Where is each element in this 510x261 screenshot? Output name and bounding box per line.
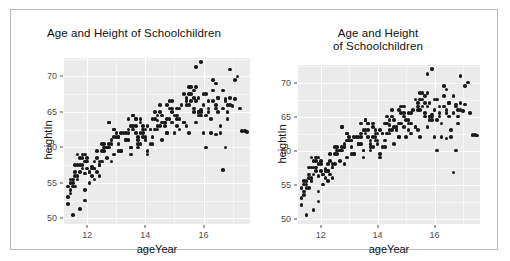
data-point <box>404 135 408 139</box>
gridline-horizontal <box>298 83 480 84</box>
data-point <box>144 128 148 132</box>
data-point <box>73 163 77 167</box>
data-point <box>102 142 106 146</box>
data-point <box>134 124 138 128</box>
data-point <box>160 138 164 142</box>
data-point <box>66 185 70 189</box>
data-point <box>345 139 349 143</box>
data-point <box>350 152 354 156</box>
data-point <box>307 166 311 170</box>
data-point <box>390 108 394 112</box>
data-point <box>383 145 387 149</box>
data-point <box>305 213 309 217</box>
data-point <box>124 131 128 135</box>
data-point <box>194 99 198 103</box>
data-point <box>371 122 375 126</box>
data-point <box>71 185 75 189</box>
data-point <box>105 156 109 160</box>
data-point <box>452 94 456 98</box>
data-point <box>440 122 444 126</box>
data-point <box>359 122 363 126</box>
chart-title-line: of Schoolchildren <box>256 40 500 53</box>
data-point <box>175 117 179 121</box>
data-point <box>402 111 406 115</box>
data-point <box>385 122 389 126</box>
data-point <box>376 142 380 146</box>
y-axis-tick-mark <box>294 150 297 151</box>
data-point <box>221 89 225 93</box>
data-point <box>226 117 230 121</box>
y-axis-title: heightIn <box>276 120 288 168</box>
data-point <box>395 128 399 132</box>
data-point <box>438 115 442 119</box>
x-axis-tick-label: 12 <box>82 230 92 240</box>
data-point <box>326 162 330 166</box>
gridline-horizontal <box>298 219 480 220</box>
gridline-horizontal <box>298 151 480 152</box>
data-point <box>100 160 104 164</box>
data-point <box>402 115 406 119</box>
data-point <box>182 92 186 96</box>
data-point <box>468 111 472 115</box>
data-point <box>170 121 174 125</box>
data-point <box>402 125 406 129</box>
gridline-horizontal-minor <box>298 100 480 101</box>
data-point <box>430 67 434 71</box>
x-axis-tick-mark <box>377 225 378 228</box>
data-point <box>207 110 211 114</box>
data-point <box>366 135 370 139</box>
data-point <box>335 152 339 156</box>
data-point <box>423 94 427 98</box>
data-point <box>207 99 211 103</box>
data-point <box>149 128 153 132</box>
data-point <box>305 186 309 190</box>
gridline-vertical-minor <box>463 65 464 224</box>
gridline-horizontal <box>64 76 250 77</box>
data-point <box>83 172 87 176</box>
data-point <box>466 81 470 85</box>
data-point <box>300 203 304 207</box>
data-point <box>312 159 316 163</box>
data-point <box>194 65 198 69</box>
data-point <box>312 173 316 177</box>
data-point <box>433 108 437 112</box>
data-point <box>314 166 318 170</box>
data-point <box>442 94 446 98</box>
data-point <box>160 114 164 118</box>
data-point <box>416 108 420 112</box>
gridline-horizontal-minor <box>64 59 250 60</box>
gridline-horizontal <box>64 183 250 184</box>
data-point <box>302 179 306 183</box>
data-point <box>321 183 325 187</box>
data-point <box>119 131 123 135</box>
data-point <box>454 149 458 153</box>
data-point <box>447 115 451 119</box>
data-point <box>224 146 228 150</box>
data-point <box>449 135 453 139</box>
chart-title-left: Age and Height of Schoolchildren <box>12 27 256 40</box>
data-point <box>343 162 347 166</box>
data-point <box>221 168 225 172</box>
data-point <box>362 149 366 153</box>
data-point <box>170 110 174 114</box>
data-point <box>146 153 150 157</box>
data-point <box>438 105 442 109</box>
data-point <box>331 176 335 180</box>
data-point <box>156 128 160 132</box>
data-point <box>475 134 479 138</box>
data-point <box>165 131 169 135</box>
y-axis-tick-label: 50 <box>47 213 57 223</box>
data-point <box>102 149 106 153</box>
data-point <box>392 142 396 146</box>
gridline-horizontal <box>64 112 250 113</box>
data-point <box>158 110 162 114</box>
data-point <box>302 193 306 197</box>
data-point <box>314 156 318 160</box>
data-point <box>369 142 373 146</box>
data-point <box>211 78 215 82</box>
data-point <box>136 146 140 150</box>
data-point <box>328 152 332 156</box>
data-point <box>189 85 193 89</box>
data-point <box>151 142 155 146</box>
data-point <box>463 103 467 107</box>
